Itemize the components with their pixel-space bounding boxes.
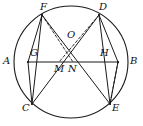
point-label-n: N bbox=[68, 64, 77, 74]
vertex-dot-f bbox=[41, 14, 43, 16]
diagonal-f-e bbox=[42, 15, 110, 104]
point-label-h: H bbox=[100, 48, 109, 58]
segment-f-c bbox=[32, 15, 42, 104]
point-label-a: A bbox=[3, 56, 10, 66]
point-label-b: B bbox=[130, 56, 137, 66]
point-label-d: D bbox=[99, 2, 107, 12]
dashed-b-e bbox=[110, 62, 118, 104]
dashed-segments-group bbox=[42, 15, 118, 104]
point-label-m: M bbox=[54, 64, 64, 74]
point-label-f: F bbox=[40, 2, 47, 12]
vertex-dot-d bbox=[98, 14, 100, 16]
vertex-dot-e bbox=[109, 103, 111, 105]
dashed-d-m bbox=[59, 15, 99, 62]
vertex-dot-b bbox=[117, 61, 119, 63]
diagonal-d-c bbox=[32, 15, 99, 104]
point-label-o: O bbox=[67, 30, 75, 40]
vertex-dot-c bbox=[31, 103, 33, 105]
vertex-dot-a bbox=[27, 61, 29, 63]
point-label-g: G bbox=[30, 48, 38, 58]
geometry-figure: ABCDEFGHMNO bbox=[0, 0, 143, 126]
point-label-c: C bbox=[22, 103, 30, 113]
point-label-e: E bbox=[112, 103, 119, 113]
segment-a-c bbox=[28, 62, 32, 104]
